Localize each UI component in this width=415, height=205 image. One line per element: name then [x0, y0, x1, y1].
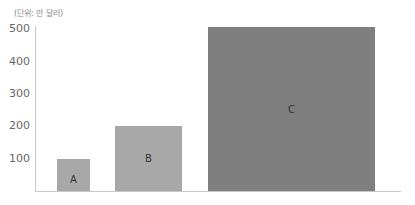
bar-label-a: A: [70, 174, 77, 185]
x-axis: [35, 191, 401, 192]
y-tick-300: 300: [2, 88, 30, 100]
bar-label-c: C: [288, 104, 295, 115]
bar-a: A: [57, 159, 90, 191]
bar-b: B: [115, 126, 182, 191]
y-tick-400: 400: [2, 56, 30, 68]
y-tick-500: 500: [2, 23, 30, 35]
unit-label: (단위: 만 달러): [14, 7, 63, 18]
bar-label-b: B: [145, 153, 152, 164]
bar-c: C: [208, 27, 375, 191]
y-tick-200: 200: [2, 120, 30, 132]
y-axis: [35, 26, 36, 192]
y-tick-100: 100: [2, 153, 30, 165]
